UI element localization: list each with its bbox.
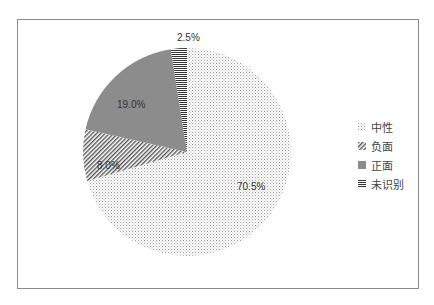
- pie-slices: [83, 48, 291, 256]
- legend-item-unidentified: 未识别: [358, 174, 404, 193]
- data-label: 70.5%: [237, 181, 265, 192]
- data-label: 2.5%: [177, 32, 200, 43]
- legend-item-positive: 正面: [358, 155, 404, 174]
- legend-item-neutral: 中性: [358, 117, 404, 136]
- legend: 中性 负面 正面 未识别: [358, 117, 404, 193]
- legend-item-negative: 负面: [358, 136, 404, 155]
- hatch-swatch-icon: [358, 142, 366, 150]
- data-label: 19.0%: [117, 99, 145, 110]
- data-label: 8.0%: [97, 160, 120, 171]
- dotted-swatch-icon: [358, 123, 366, 131]
- lines-swatch-icon: [358, 180, 366, 188]
- solid-swatch-icon: [358, 161, 366, 169]
